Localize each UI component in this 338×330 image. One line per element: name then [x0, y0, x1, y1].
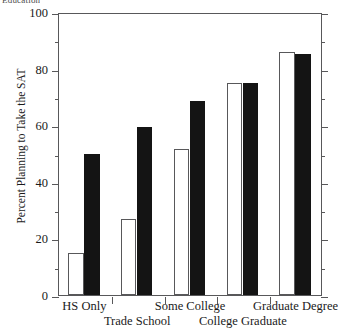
x-tick-label: College Graduate — [199, 314, 287, 329]
bar-solid — [243, 83, 259, 295]
y-tick-major-right — [321, 184, 328, 185]
plot-area — [58, 13, 322, 296]
x-tick-label: Some College — [155, 299, 225, 314]
x-tick — [112, 297, 113, 304]
bar-solid — [295, 54, 311, 295]
y-tick-label: 100 — [0, 6, 48, 21]
y-tick-minor — [55, 99, 59, 100]
y-tick-minor — [55, 212, 59, 213]
y-tick-label: 20 — [0, 232, 48, 247]
y-tick-minor-right — [321, 156, 325, 157]
y-tick-label: 0 — [0, 289, 48, 304]
y-tick-minor — [55, 42, 59, 43]
bar-open — [174, 149, 190, 295]
y-tick-label: 60 — [0, 119, 48, 134]
y-tick-label: 40 — [0, 175, 48, 190]
y-tick-major-right — [321, 127, 328, 128]
y-tick-minor-right — [321, 269, 325, 270]
x-tick-label: Trade School — [104, 314, 171, 329]
y-tick-major-right — [321, 71, 328, 72]
bar-solid — [137, 127, 153, 295]
y-tick-minor — [55, 269, 59, 270]
y-tick-label: 80 — [0, 62, 48, 77]
bar-open — [227, 83, 243, 295]
y-tick-major — [52, 184, 59, 185]
y-tick-minor-right — [321, 212, 325, 213]
chart-title-clipped: Education — [2, 0, 40, 3]
y-tick-minor-right — [321, 42, 325, 43]
bar-solid — [84, 154, 100, 296]
y-tick-major — [52, 14, 59, 15]
x-tick-label: Graduate Degree — [253, 299, 338, 314]
y-tick-minor-right — [321, 99, 325, 100]
y-tick-major-right — [321, 240, 328, 241]
y-tick-major-right — [321, 297, 328, 298]
y-tick-minor — [55, 156, 59, 157]
y-tick-major-right — [321, 14, 328, 15]
bar-solid — [190, 101, 206, 295]
bar-open — [68, 253, 84, 295]
y-tick-major — [52, 71, 59, 72]
bar-open — [121, 219, 137, 295]
y-tick-major — [52, 240, 59, 241]
y-tick-major — [52, 297, 59, 298]
bar-open — [279, 52, 295, 295]
y-tick-major — [52, 127, 59, 128]
x-tick-label: HS Only — [62, 299, 106, 314]
